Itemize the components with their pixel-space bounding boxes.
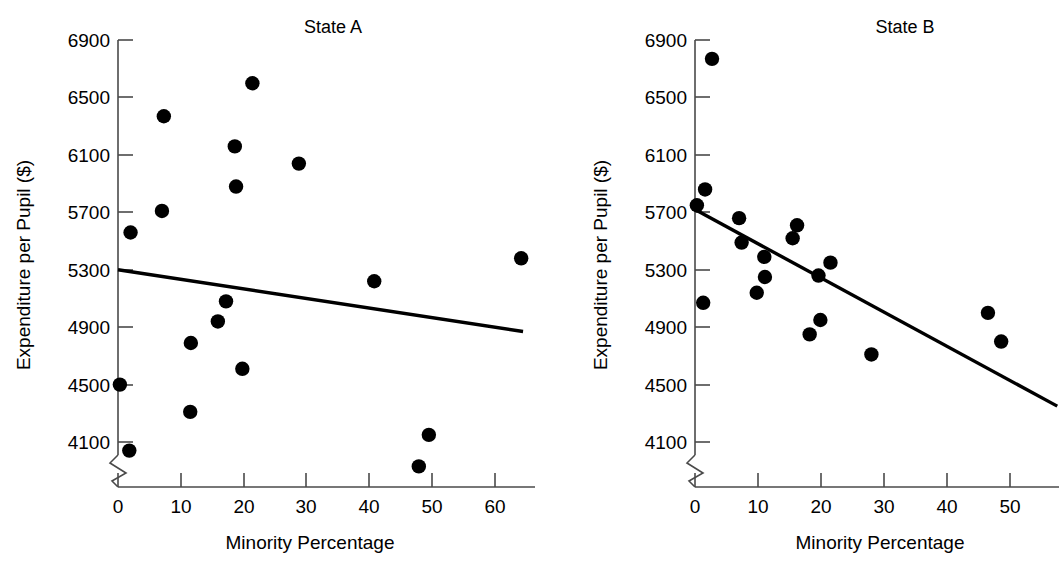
data-point	[750, 286, 764, 300]
data-point	[732, 211, 746, 225]
y-tick-label: 4900	[645, 317, 687, 338]
data-point	[823, 255, 837, 269]
data-point	[785, 231, 799, 245]
x-tick-label: 0	[690, 496, 701, 517]
y-tick-labels-b: 6900 6500 6100 5700 5300 4900 4500 4100	[645, 30, 687, 453]
data-point	[696, 296, 710, 310]
scatter-svg-state-b: State B Expenditure per Pupil ($) Minori…	[0, 0, 1059, 585]
y-ticks-b	[695, 40, 710, 442]
data-point	[758, 270, 772, 284]
x-tick-label: 30	[873, 496, 894, 517]
data-point	[705, 52, 719, 66]
x-tick-label: 40	[936, 496, 957, 517]
figure-canvas: State A Expenditure per Pupil ($) Minori…	[0, 0, 1059, 585]
y-tick-label: 4100	[645, 432, 687, 453]
x-tick-label: 10	[747, 496, 768, 517]
x-axis-title-b: Minority Percentage	[796, 532, 965, 553]
data-point	[790, 218, 804, 232]
data-point	[981, 306, 995, 320]
data-point	[811, 268, 825, 282]
x-tick-label: 20	[810, 496, 831, 517]
panel-title-b: State B	[875, 17, 934, 37]
x-ticks-b	[695, 473, 1010, 487]
data-point	[802, 327, 816, 341]
y-tick-label: 5300	[645, 260, 687, 281]
data-point	[864, 347, 878, 361]
y-tick-label: 6900	[645, 30, 687, 51]
panel-state-b: State B Expenditure per Pupil ($) Minori…	[0, 0, 1059, 585]
data-point	[994, 334, 1008, 348]
y-tick-label: 6100	[645, 145, 687, 166]
x-tick-label: 50	[999, 496, 1020, 517]
x-tick-labels-b: 0 10 20 30 40 50	[690, 496, 1021, 517]
data-point	[690, 198, 704, 212]
data-point	[813, 313, 827, 327]
data-point	[757, 250, 771, 264]
y-axis-title-b: Expenditure per Pupil ($)	[590, 160, 611, 370]
data-points-b	[690, 52, 1009, 362]
regression-line	[695, 210, 1057, 407]
fit-line-group-b	[695, 210, 1057, 407]
y-tick-label: 5700	[645, 202, 687, 223]
data-point	[698, 182, 712, 196]
y-tick-label: 4500	[645, 375, 687, 396]
y-tick-label: 6500	[645, 87, 687, 108]
data-point	[734, 235, 748, 249]
